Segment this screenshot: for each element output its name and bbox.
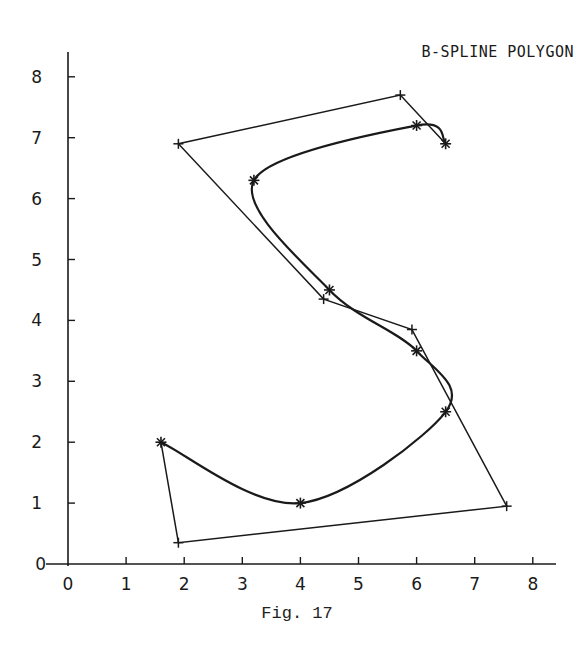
x-tick-label: 0 <box>63 574 74 594</box>
x-tick-label: 8 <box>527 574 538 594</box>
control-polygon <box>161 95 507 543</box>
x-tick-label: 5 <box>353 574 364 594</box>
curve-point-markers <box>155 120 451 509</box>
x-tick-label: 4 <box>295 574 306 594</box>
y-tick-label: 1 <box>31 493 42 513</box>
y-tick-label: 0 <box>35 554 46 574</box>
x-tick-label: 3 <box>237 574 248 594</box>
figure-caption: Fig. 17 <box>0 604 586 623</box>
b-spline-curve <box>161 124 452 503</box>
x-tick-label: 6 <box>411 574 422 594</box>
x-tick-label: 7 <box>469 574 480 594</box>
x-tick-label: 2 <box>179 574 190 594</box>
chart-title: B-SPLINE POLYGON <box>422 43 575 61</box>
y-tick-label: 7 <box>31 128 42 148</box>
y-tick-label: 5 <box>31 250 42 270</box>
x-tick-label: 1 <box>121 574 132 594</box>
b-spline-figure: 012345678 012345678 B-SPLINE POLYGON <box>0 0 586 662</box>
y-tick-label: 6 <box>31 189 42 209</box>
x-ticks <box>126 557 533 564</box>
y-tick-label: 2 <box>31 432 42 452</box>
y-tick-label: 8 <box>31 67 42 87</box>
axes <box>46 52 556 566</box>
y-tick-label: 3 <box>31 371 42 391</box>
y-ticks <box>68 77 75 503</box>
x-tick-labels: 012345678 <box>63 574 539 594</box>
y-tick-label: 4 <box>31 310 42 330</box>
y-tick-labels: 012345678 <box>31 67 46 574</box>
